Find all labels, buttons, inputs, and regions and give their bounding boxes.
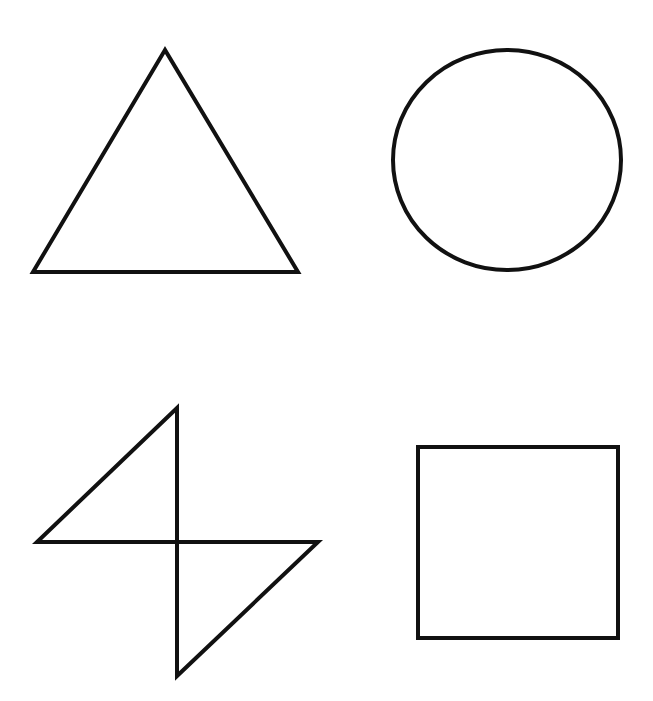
shapes-svg xyxy=(0,0,653,701)
square-shape xyxy=(418,447,618,638)
diamond-shape xyxy=(37,408,318,676)
triangle-shape xyxy=(33,50,298,272)
circle-shape xyxy=(393,50,621,270)
shapes-canvas xyxy=(0,0,653,701)
